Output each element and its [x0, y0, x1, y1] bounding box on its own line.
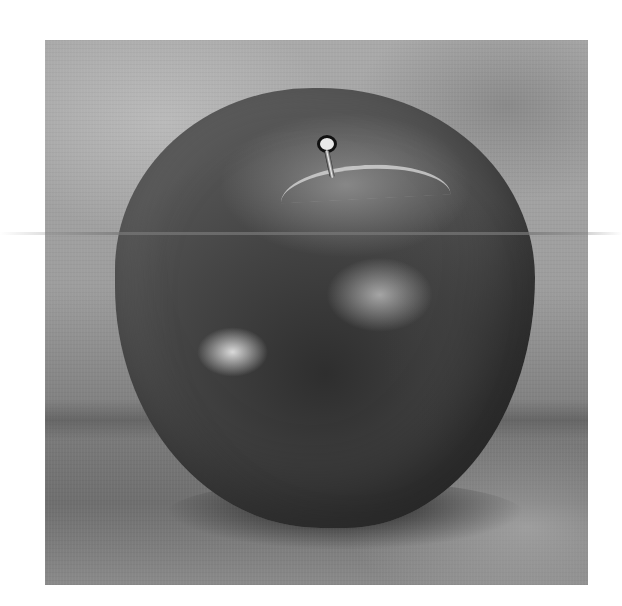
- painting-canvas: [45, 40, 588, 585]
- scan-artifact-line: [0, 232, 622, 235]
